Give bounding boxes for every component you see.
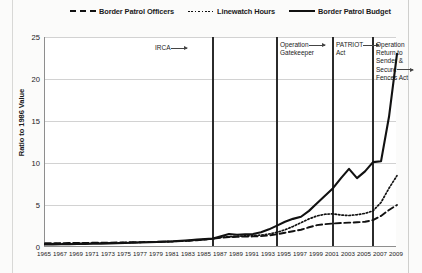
x-tick-label-1989: 1989 — [229, 250, 243, 257]
x-tick-label-1995: 1995 — [277, 250, 291, 257]
x-tick-label-1993: 1993 — [261, 250, 275, 257]
x-tick-label-1997: 1997 — [293, 250, 307, 257]
annotation-operation-return-to-sender-secure-fences-act: OperationReturn toSender &SecureFences A… — [376, 41, 417, 82]
series-layer — [45, 37, 397, 247]
annotation-line: IRCA — [155, 44, 191, 52]
y-axis-ticks: 0510152025 — [8, 0, 40, 273]
plot-area — [44, 37, 396, 247]
annotation-line: Operation — [376, 41, 417, 49]
y-tick-label-0: 0 — [14, 243, 40, 252]
arrow-right-icon — [171, 46, 191, 51]
annotation-line: Fences Act — [376, 74, 417, 82]
x-tick-label-2009: 2009 — [389, 250, 403, 257]
x-tick-label-2005: 2005 — [357, 250, 371, 257]
y-tick-label-5: 5 — [14, 201, 40, 210]
x-tick-label-1965: 1965 — [37, 250, 51, 257]
legend-label-budget: Border Patrol Budget — [318, 7, 391, 16]
x-tick-label-2007: 2007 — [373, 250, 387, 257]
y-tick-label-25: 25 — [14, 33, 40, 42]
annotation-line: Secure — [376, 66, 417, 74]
legend-item-linewatch-hours: Linewatch Hours — [188, 7, 275, 16]
series-line-linewatch-hours — [45, 176, 397, 244]
x-tick-label-2001: 2001 — [325, 250, 339, 257]
x-tick-label-1971: 1971 — [85, 250, 99, 257]
x-tick-label-1967: 1967 — [53, 250, 67, 257]
y-tick-label-15: 15 — [14, 117, 40, 126]
x-tick-label-1969: 1969 — [69, 250, 83, 257]
x-tick-label-1973: 1973 — [101, 250, 115, 257]
arrow-right-icon — [309, 43, 329, 48]
y-tick-label-20: 20 — [14, 75, 40, 84]
legend-item-border-patrol-budget: Border Patrol Budget — [289, 7, 391, 16]
annotation-line: Operation — [280, 41, 329, 49]
series-line-border-patrol-budget — [45, 54, 397, 245]
chart-legend: Border Patrol Officers Linewatch Hours B… — [70, 4, 370, 18]
x-tick-label-1979: 1979 — [149, 250, 163, 257]
legend-label-officers: Border Patrol Officers — [99, 7, 174, 16]
x-tick-label-1991: 1991 — [245, 250, 259, 257]
x-tick-label-1977: 1977 — [133, 250, 147, 257]
annotation-irca: IRCA — [155, 44, 191, 52]
annotation-operation-gatekeeper: OperationGatekeeper — [280, 41, 329, 57]
annotation-line: Return to — [376, 49, 417, 57]
x-tick-label-1999: 1999 — [309, 250, 323, 257]
annotation-line: Sender & — [376, 57, 417, 65]
legend-label-linewatch: Linewatch Hours — [217, 7, 275, 16]
annotation-line: Gatekeeper — [280, 49, 329, 57]
x-tick-label-1983: 1983 — [181, 250, 195, 257]
border-enforcement-chart: Border Patrol Officers Linewatch Hours B… — [0, 0, 422, 273]
solid-line-swatch-icon — [289, 8, 315, 14]
x-tick-label-1987: 1987 — [213, 250, 227, 257]
x-tick-label-2003: 2003 — [341, 250, 355, 257]
x-tick-label-1985: 1985 — [197, 250, 211, 257]
x-tick-label-1981: 1981 — [165, 250, 179, 257]
dotted-line-swatch-icon — [188, 8, 214, 14]
x-tick-label-1975: 1975 — [117, 250, 131, 257]
dashed-line-swatch-icon — [70, 8, 96, 14]
arrow-right-icon — [397, 67, 417, 72]
y-tick-label-10: 10 — [14, 159, 40, 168]
legend-item-border-patrol-officers: Border Patrol Officers — [70, 7, 174, 16]
x-axis-ticks: 1965196719691971197319751977197919811983… — [44, 250, 396, 270]
